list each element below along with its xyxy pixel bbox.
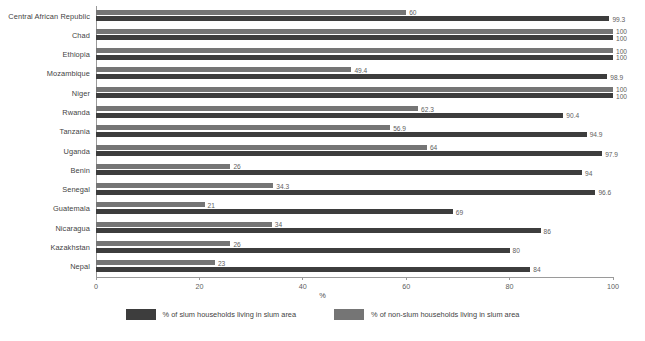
bar-slot-dark: 86 xyxy=(96,228,613,233)
bar-light[interactable]: 26 xyxy=(96,241,230,246)
bar-value-label: 64 xyxy=(430,144,437,151)
category-label: Uganda xyxy=(64,146,91,155)
bar-slot-light: 56.9 xyxy=(96,125,613,130)
x-tick-mark xyxy=(509,277,510,280)
bar-dark[interactable]: 100 xyxy=(96,55,613,60)
bar-dark[interactable]: 69 xyxy=(96,209,453,214)
bar-slot-dark: 80 xyxy=(96,248,613,253)
bar-light[interactable]: 49.4 xyxy=(96,67,351,72)
x-tick-mark xyxy=(406,277,407,280)
bar-value-label: 96.6 xyxy=(598,189,611,196)
x-tick: 40 xyxy=(299,277,307,291)
bar-value-label: 86 xyxy=(544,227,551,234)
bar-row: Tanzania56.994.9 xyxy=(96,122,613,141)
category-label: Tanzania xyxy=(60,127,90,136)
legend-swatch-dark xyxy=(126,309,156,320)
bar-slot-light: 100 xyxy=(96,87,613,92)
bar-slot-dark: 84 xyxy=(96,267,613,272)
bar-row: Central African Republic6099.3 xyxy=(96,6,613,25)
bar-value-label: 100 xyxy=(616,34,627,41)
legend-swatch-light xyxy=(334,309,364,320)
x-tick-mark xyxy=(199,277,200,280)
bar-slot-dark: 99.3 xyxy=(96,16,613,21)
bar-row: Mozambique49.498.9 xyxy=(96,64,613,83)
bar-row: Rwanda62.390.4 xyxy=(96,102,613,121)
bar-slot-light: 100 xyxy=(96,29,613,34)
category-label: Rwanda xyxy=(62,108,90,117)
bar-dark[interactable]: 94.9 xyxy=(96,132,587,137)
x-tick: 80 xyxy=(506,277,514,291)
bar-slot-light: 64 xyxy=(96,145,613,150)
category-label: Benin xyxy=(71,165,90,174)
bar-value-label: 49.4 xyxy=(354,66,367,73)
bar-row: Chad100100 xyxy=(96,25,613,44)
bar-row: Nepal2384 xyxy=(96,257,613,276)
bar-light[interactable]: 21 xyxy=(96,202,205,207)
bar-slot-dark: 94.9 xyxy=(96,132,613,137)
bar-light[interactable]: 100 xyxy=(96,48,613,53)
bar-slot-light: 34 xyxy=(96,222,613,227)
bar-light[interactable]: 60 xyxy=(96,10,406,15)
bar-dark[interactable]: 98.9 xyxy=(96,74,607,79)
bar-row: Nicaragua3486 xyxy=(96,218,613,237)
bar-dark[interactable]: 99.3 xyxy=(96,16,609,21)
bar-slot-light: 60 xyxy=(96,10,613,15)
bar-light[interactable]: 26 xyxy=(96,164,230,169)
bar-dark[interactable]: 86 xyxy=(96,228,541,233)
legend-label: % of slum households living in slum area xyxy=(163,310,297,319)
bar-value-label: 90.4 xyxy=(566,112,579,119)
bar-value-label: 56.9 xyxy=(393,124,406,131)
bar-value-label: 60 xyxy=(409,9,416,16)
bar-slot-light: 21 xyxy=(96,202,613,207)
bar-dark[interactable]: 84 xyxy=(96,267,530,272)
bar-light[interactable]: 56.9 xyxy=(96,125,390,130)
bar-dark[interactable]: 80 xyxy=(96,248,510,253)
x-axis-ticks: 020406080100 xyxy=(96,277,613,291)
bar-value-label: 84 xyxy=(533,266,540,273)
bar-dark[interactable]: 96.6 xyxy=(96,190,595,195)
x-tick-label: 80 xyxy=(506,282,514,291)
bar-dark[interactable]: 100 xyxy=(96,93,613,98)
category-label: Chad xyxy=(72,30,90,39)
bar-row: Uganda6497.9 xyxy=(96,141,613,160)
bar-light[interactable]: 64 xyxy=(96,145,427,150)
grouped-bar-chart: Central African Republic6099.3Chad100100… xyxy=(0,0,645,341)
bar-value-label: 94.9 xyxy=(590,131,603,138)
chart-legend: % of slum households living in slum area… xyxy=(0,309,645,320)
x-tick: 20 xyxy=(195,277,203,291)
legend-item[interactable]: % of slum households living in slum area xyxy=(126,309,297,320)
legend-item[interactable]: % of non-slum households living in slum … xyxy=(334,309,519,320)
bar-light[interactable]: 34 xyxy=(96,222,272,227)
bar-light[interactable]: 62.3 xyxy=(96,106,418,111)
bar-value-label: 26 xyxy=(233,240,240,247)
category-label: Senegal xyxy=(62,185,90,194)
bar-value-label: 21 xyxy=(208,201,215,208)
bar-light[interactable]: 100 xyxy=(96,29,613,34)
bar-value-label: 99.3 xyxy=(612,15,625,22)
bar-row: Kazakhstan2680 xyxy=(96,237,613,256)
x-axis-title: % xyxy=(0,291,645,300)
x-tick-mark xyxy=(96,277,97,280)
x-tick-mark xyxy=(302,277,303,280)
category-label: Kazakhstan xyxy=(50,243,90,252)
bar-dark[interactable]: 100 xyxy=(96,35,613,40)
bar-dark[interactable]: 90.4 xyxy=(96,113,563,118)
bar-light[interactable]: 100 xyxy=(96,87,613,92)
bar-slot-dark: 96.6 xyxy=(96,190,613,195)
bar-light[interactable]: 23 xyxy=(96,260,215,265)
legend-label: % of non-slum households living in slum … xyxy=(371,310,519,319)
bar-value-label: 34.3 xyxy=(276,182,289,189)
bar-value-label: 98.9 xyxy=(610,73,623,80)
bar-slot-light: 23 xyxy=(96,260,613,265)
category-label: Ethiopia xyxy=(62,50,90,59)
x-tick-label: 0 xyxy=(94,282,98,291)
bar-row: Ethiopia100100 xyxy=(96,45,613,64)
bar-value-label: 62.3 xyxy=(421,105,434,112)
category-label: Guatemala xyxy=(53,204,90,213)
bar-value-label: 97.9 xyxy=(605,150,618,157)
bar-light[interactable]: 34.3 xyxy=(96,183,273,188)
bar-dark[interactable]: 97.9 xyxy=(96,151,602,156)
bar-dark[interactable]: 94 xyxy=(96,170,582,175)
bar-row: Senegal34.396.6 xyxy=(96,180,613,199)
bar-value-label: 94 xyxy=(585,169,592,176)
